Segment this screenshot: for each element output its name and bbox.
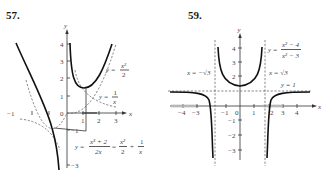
label-function-59: y = x² − 4 x² − 3 [267, 41, 301, 60]
svg-text:y =: y = [105, 66, 116, 74]
svg-text:1: 1 [114, 89, 118, 97]
svg-text:2: 2 [122, 71, 126, 79]
label-left-asymptote-59: x = −√3 [186, 69, 211, 77]
problem-number-59: 59. [188, 9, 202, 21]
x-axis-label-59: x [317, 103, 322, 111]
figure-57: 57. y x 4 3 2 1 0 −1 −3 1 [6, 9, 144, 170]
curve-left-branch-59 [170, 92, 213, 158]
y-axis-label-57: y [63, 22, 68, 30]
x-axis-arrow-icon [312, 104, 317, 107]
x-axis-label-57: x [128, 110, 133, 118]
svg-text:1: 1 [140, 138, 144, 146]
svg-text:−3: −3 [71, 162, 79, 170]
figure-59: 59. y x 4 3 2 −1 −2 −3 [168, 9, 322, 166]
svg-text:y =: y = [98, 93, 109, 101]
svg-text:1: 1 [60, 93, 64, 101]
label-horizontal-asymptote-59: y = 1 [280, 81, 296, 89]
svg-text:2: 2 [232, 73, 236, 81]
svg-text:y =: y = [74, 143, 85, 151]
y-axis-label-59: y [237, 26, 242, 34]
svg-text:4: 4 [60, 41, 64, 49]
label-right-asymptote-59: x = √3 [268, 69, 288, 77]
svg-text:x²: x² [119, 138, 126, 146]
svg-text:−4: −4 [178, 109, 186, 117]
axis-highlight-left-59 [171, 105, 196, 108]
label-parabola-57: y = x² 2 [105, 62, 129, 79]
figure-canvas: 57. y x 4 3 2 1 0 −1 −3 1 [0, 0, 324, 182]
svg-text:3: 3 [114, 117, 118, 125]
svg-text:0: 0 [235, 109, 239, 117]
curve-right-branch-59 [267, 92, 310, 158]
svg-text:−1: −1 [221, 109, 229, 117]
svg-text:−1: −1 [228, 117, 236, 125]
svg-text:2: 2 [97, 117, 101, 125]
svg-text:4: 4 [295, 109, 299, 117]
svg-text:=: = [112, 143, 116, 151]
label-function-57: y = x³ + 2 2x = x² 2 + 1 x [74, 138, 144, 156]
svg-text:0: 0 [60, 110, 64, 118]
svg-text:−2: −2 [228, 132, 236, 140]
svg-text:3: 3 [232, 59, 236, 67]
svg-text:−3: −3 [192, 109, 200, 117]
svg-text:x² − 4: x² − 4 [281, 41, 299, 49]
svg-text:x²: x² [120, 62, 127, 70]
svg-text:4: 4 [232, 45, 236, 53]
svg-text:2: 2 [60, 75, 64, 83]
svg-text:1: 1 [252, 109, 256, 117]
svg-text:+: + [130, 143, 134, 151]
svg-text:1: 1 [81, 117, 85, 125]
svg-text:x² − 3: x² − 3 [281, 52, 299, 60]
svg-text:y =: y = [267, 46, 278, 54]
svg-text:x: x [138, 148, 143, 156]
svg-text:x: x [112, 98, 117, 106]
axis-highlight-right-59 [263, 105, 283, 108]
svg-text:2: 2 [270, 109, 274, 117]
svg-text:3: 3 [281, 109, 285, 117]
svg-text:2x: 2x [95, 148, 103, 156]
svg-text:3: 3 [60, 58, 64, 66]
svg-text:−3: −3 [228, 147, 236, 155]
label-reciprocal-57: y = 1 x [98, 89, 118, 106]
problem-number-57: 57. [6, 9, 20, 21]
x-axis-arrow-icon [122, 111, 127, 114]
svg-text:x³ + 2: x³ + 2 [89, 138, 107, 146]
svg-text:−1: −1 [7, 110, 15, 118]
svg-text:2: 2 [121, 148, 125, 156]
curve-left-branch-57 [16, 43, 59, 170]
